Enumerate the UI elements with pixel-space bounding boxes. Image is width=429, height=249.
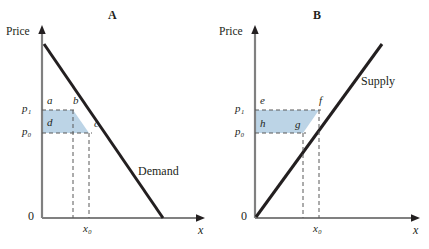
panel-a-point-d: d [47,116,53,128]
panel-a-point-a: a [47,94,53,106]
panel-a-curve-label-demand: Demand [138,164,179,179]
panel-a-point-b: b [73,94,79,106]
panel-b-point-g: g [295,118,301,130]
panel-a-tick-p1: p₁ [22,102,31,114]
panel-a-tick-p0: p₀ [22,125,31,137]
panel-b-x-axis-arrow [411,214,420,221]
panel-b-origin-label: 0 [241,209,247,224]
panel-b-x-axis-label: x [413,223,418,238]
panel-b-curve-label-supply: Supply [361,74,395,89]
panel-a-tick-x0: x₀ [83,222,92,234]
panel-b-point-h: h [260,117,266,129]
panel-a-origin-label: 0 [28,209,34,224]
panel-a-point-c: c [94,117,99,129]
economics-supply-demand-figure: A Price x 0 p₁ p₀ x₀ a [0,0,429,249]
panel-b-y-axis-arrow [251,25,258,34]
panel-b-point-f: f [319,94,322,106]
panel-a-y-axis-label: Price [6,25,30,37]
panel-a-y-axis-arrow [38,25,45,34]
panel-b-y-axis-label: Price [219,25,243,37]
panel-b-tick-x0: x₀ [313,222,322,234]
panel-b-tick-p0: p₀ [235,125,244,137]
panel-b-tick-p1: p₁ [235,102,244,114]
panel-a-x-axis-label: x [198,223,203,238]
panel-b-point-e: e [260,94,265,106]
panel-a-demand: A Price x 0 p₁ p₀ x₀ a [0,0,214,249]
panel-b-plot [215,0,429,249]
panel-b-supply: B Price x 0 p₁ p₀ x₀ e [215,0,429,249]
panel-a-x-axis-arrow [196,214,205,221]
